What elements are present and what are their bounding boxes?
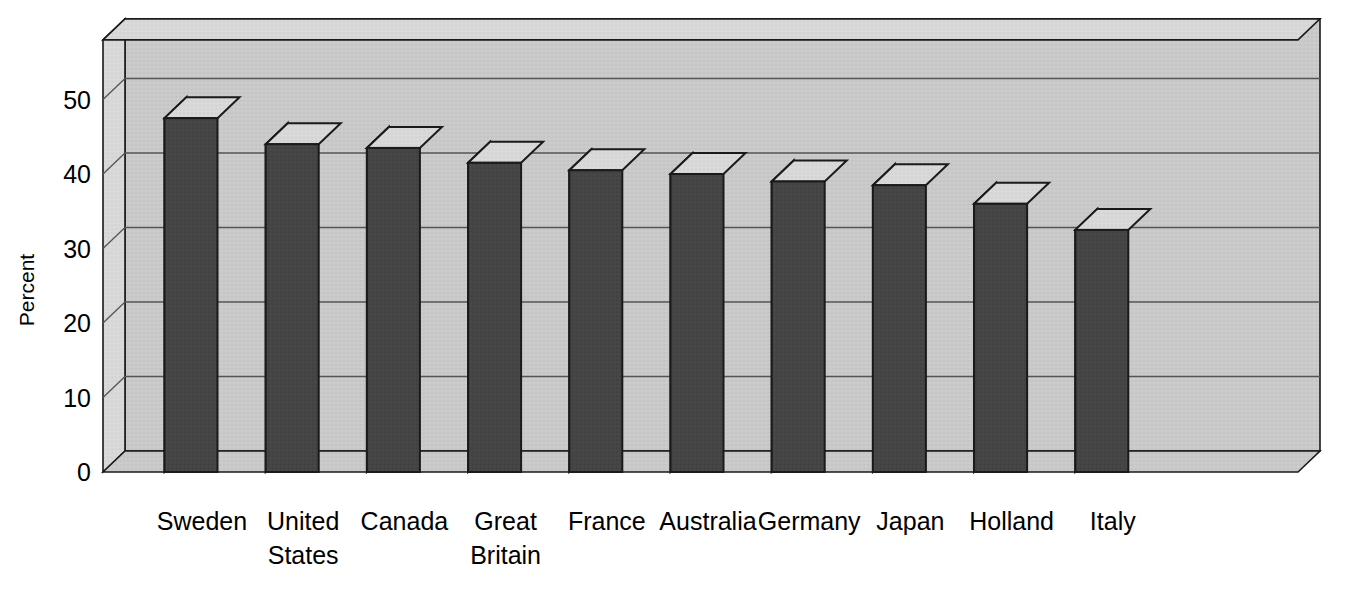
y-tick-label: 10	[63, 384, 91, 412]
category-label: Sweden	[157, 507, 247, 535]
bar-chart: 01020304050 SwedenUnitedStatesCanadaGrea…	[0, 0, 1347, 592]
x-axis-category-labels: SwedenUnitedStatesCanadaGreatBritainFran…	[157, 507, 1136, 569]
category-label: Britain	[470, 541, 541, 569]
category-label: Japan	[876, 507, 944, 535]
category-label: Great	[474, 507, 537, 535]
bar-front-face	[873, 185, 926, 472]
bar-front-face	[1075, 230, 1128, 472]
y-axis-title: Percent	[15, 254, 38, 327]
y-axis-tick-labels: 01020304050	[63, 86, 91, 487]
bar-front-face	[569, 170, 622, 472]
y-tick-label: 50	[63, 86, 91, 114]
bar-front-face	[165, 118, 218, 472]
y-tick-label: 40	[63, 160, 91, 188]
bar-front-face	[974, 204, 1027, 472]
category-label: Australia	[659, 507, 756, 535]
category-label: Canada	[361, 507, 449, 535]
category-label: United	[267, 507, 339, 535]
bar-front-face	[266, 144, 319, 472]
y-tick-label: 20	[63, 309, 91, 337]
wall-top-cap	[103, 19, 1320, 40]
category-label: Italy	[1090, 507, 1136, 535]
chart-canvas: 01020304050 SwedenUnitedStatesCanadaGrea…	[0, 0, 1347, 592]
category-label: Germany	[758, 507, 861, 535]
category-label: France	[568, 507, 646, 535]
category-label: Holland	[969, 507, 1054, 535]
bar-front-face	[367, 148, 420, 472]
bar-front-face	[671, 174, 724, 472]
bar-front-face	[772, 181, 825, 472]
y-tick-label: 30	[63, 235, 91, 263]
bar-front-face	[468, 163, 521, 472]
y-tick-label: 0	[77, 458, 91, 486]
category-label: States	[268, 541, 339, 569]
